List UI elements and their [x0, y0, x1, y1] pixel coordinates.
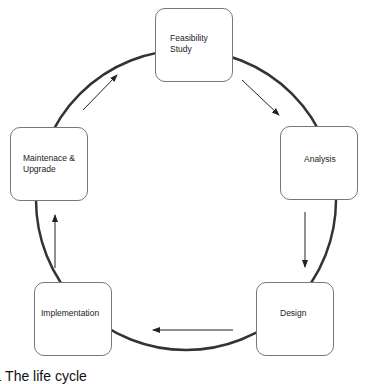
node-label: Implementation — [41, 308, 99, 319]
node-design: Design — [256, 282, 334, 356]
arrow-feasibility-to-analysis — [242, 80, 279, 115]
node-feasibility-study: Feasibility Study — [155, 8, 233, 82]
node-analysis: Analysis — [280, 126, 358, 200]
node-implementation: Implementation — [34, 282, 112, 356]
arrow-maintenance-to-feasibility — [83, 75, 117, 110]
figure-caption: 7.1 The life cycle — [0, 368, 87, 384]
node-label: Design — [280, 308, 306, 319]
node-label: Feasibility Study — [170, 33, 208, 55]
node-label: Maintenace & Upgrade — [23, 153, 75, 175]
node-label: Analysis — [304, 154, 336, 165]
node-maintenance-upgrade: Maintenace & Upgrade — [10, 127, 88, 201]
